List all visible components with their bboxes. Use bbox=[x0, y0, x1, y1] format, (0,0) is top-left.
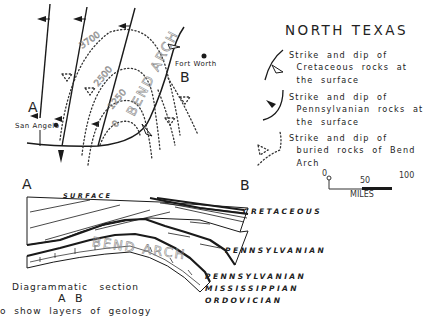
layer-ordovician: ORDOVICIAN bbox=[205, 297, 282, 305]
section-label-b: B bbox=[240, 178, 250, 192]
scale-start: 0 bbox=[322, 170, 327, 178]
layer-cretaceous: CRETACEOUS bbox=[243, 208, 322, 216]
legend-symbols bbox=[258, 50, 283, 165]
cretaceous-symbol-icon bbox=[265, 50, 283, 80]
contour-east-1 bbox=[168, 78, 198, 135]
contour-1250 bbox=[88, 100, 152, 165]
contour-label-2500: 2500 bbox=[92, 64, 115, 88]
city-label-san-angelo: San Angelo bbox=[15, 123, 60, 130]
layer-mississippian: MISSISSIPPIAN bbox=[205, 285, 299, 293]
strike-line-2 bbox=[62, 7, 87, 146]
legend-item-cretaceous: Strike and dip of Cretaceous rocks at th… bbox=[289, 49, 407, 86]
map-point-a: A bbox=[28, 100, 38, 114]
scale-unit: MILES bbox=[350, 191, 374, 199]
contour-label-0: 0 bbox=[110, 118, 122, 129]
fort-worth-marker bbox=[202, 54, 207, 59]
caption-line-2: A B bbox=[58, 293, 86, 304]
section-label-a: A bbox=[22, 177, 32, 191]
map-point-b: B bbox=[180, 70, 190, 84]
cretaceous-base-boundary bbox=[150, 198, 248, 214]
legend-item-buried: Strike and dip of buried rocks of Bend A… bbox=[289, 132, 416, 169]
city-label-fort-worth: Fort Worth bbox=[175, 61, 217, 68]
scale-end: 100 bbox=[399, 172, 414, 180]
layer-pennsylvanian-upper: PENNSYLVANIAN bbox=[225, 247, 326, 255]
map-arch-label: BEND ARCH bbox=[123, 27, 181, 118]
layer-pennsylvanian-lower: PENNSYLVANIAN bbox=[205, 273, 306, 281]
contour-label-3700: 3700 bbox=[77, 29, 102, 50]
cretaceous-block bbox=[27, 197, 248, 245]
caption-line-3: o show layers of geology bbox=[0, 307, 151, 316]
page-title: NORTH TEXAS bbox=[285, 24, 408, 38]
scale-mid: 50 bbox=[360, 177, 370, 185]
buried-symbol-icon bbox=[258, 132, 281, 165]
surface-label: SURFACE bbox=[63, 193, 112, 200]
dip-arrows bbox=[30, 16, 130, 163]
caption-line-1: Diagrammatic section bbox=[12, 283, 139, 292]
legend-item-pennsylvanian: Strike and dip of Pennsylvanian rocks at… bbox=[289, 91, 424, 128]
section-arch-label: BEND ARCH bbox=[91, 234, 187, 262]
